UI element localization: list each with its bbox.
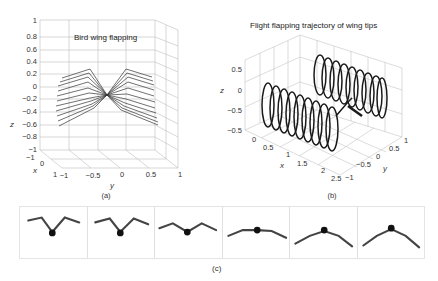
z-tick: 0 — [33, 82, 37, 91]
y-tick: 0.5 — [146, 170, 156, 179]
panel-a-plot: Bird wing flapping 1 0.8 0.6 0.4 0.2 0 −… — [0, 0, 200, 200]
z-tick: −0.6 — [22, 120, 37, 129]
panel-b-plot: Flight flapping trajectory of wing tips … — [200, 0, 438, 200]
y-tick: 0.5 — [389, 144, 399, 153]
x-tick: 2.5 — [331, 174, 341, 183]
panel-c-frame-strip — [19, 206, 425, 259]
y-axis-label: y — [109, 181, 115, 190]
x-tick: 0 — [40, 159, 44, 168]
z-tick: 0.8 — [27, 32, 37, 41]
y-tick: −0.5 — [86, 171, 101, 180]
bird-frame-1 — [20, 207, 88, 258]
y-tick: 1 — [404, 136, 408, 145]
z-tick: −0.5 — [227, 126, 242, 135]
z-tick: 0.4 — [27, 57, 37, 66]
x-tick: 1 — [53, 170, 57, 179]
z-tick: 1 — [33, 16, 37, 25]
x-axis-label: x — [279, 161, 285, 170]
bird-icon — [290, 207, 357, 258]
z-tick: −0.4 — [22, 107, 37, 116]
bird-icon — [155, 207, 222, 258]
x-axis-label: x — [32, 166, 38, 175]
bird-icon — [223, 207, 290, 258]
bird-frame-2 — [88, 207, 156, 258]
y-tick: 0 — [120, 170, 124, 179]
bird-frame-6 — [358, 207, 425, 258]
bird-frame-4 — [223, 207, 291, 258]
x-tick: −1 — [26, 153, 35, 162]
bird-frame-5 — [290, 207, 358, 258]
panel-b-label: (b) — [327, 191, 337, 200]
z-tick: −0.8 — [22, 132, 37, 141]
z-tick: −0.2 — [22, 94, 37, 103]
bird-icon — [20, 207, 87, 258]
y-tick: 1 — [178, 170, 182, 179]
bird-frame-3 — [155, 207, 223, 258]
x-tick: 0.5 — [263, 143, 273, 152]
panel-b-title: Flight flapping trajectory of wing tips — [250, 21, 377, 30]
y-tick: −1 — [60, 171, 69, 180]
z-tick: −0.5 — [227, 106, 242, 115]
z-tick: 0.2 — [27, 69, 37, 78]
panel-a-title: Bird wing flapping — [74, 33, 137, 42]
panel-a-label: (a) — [101, 191, 111, 200]
y-tick: −1 — [345, 173, 354, 182]
panel-c-label: (c) — [212, 264, 221, 273]
x-tick: 2 — [321, 166, 325, 175]
x-tick: 0 — [252, 135, 256, 144]
y-axis-label: y — [382, 164, 388, 173]
x-tick: 1 — [286, 150, 290, 159]
y-tick: 0 — [376, 152, 380, 161]
x-tick: 1.5 — [297, 159, 307, 168]
z-tick: 0.6 — [27, 45, 37, 54]
z-axis-label: z — [9, 120, 14, 129]
bird-icon — [88, 207, 155, 258]
bird-icon — [358, 207, 425, 258]
y-tick: −0.5 — [356, 160, 371, 169]
z-tick: 0.5 — [232, 65, 242, 74]
z-tick: 0 — [238, 86, 242, 95]
z-axis-label: z — [219, 86, 224, 95]
